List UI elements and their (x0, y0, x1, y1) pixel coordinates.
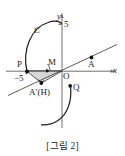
y-tick-label-5: 5 (64, 20, 69, 29)
point-label-M: M (48, 58, 56, 67)
point-label-A-prime: A′(H) (29, 88, 50, 97)
curve-C-upper-arc (26, 21, 62, 71)
curve-label-C: C (34, 26, 40, 35)
point-label-A: A (88, 60, 95, 69)
point-label-P: P (17, 60, 22, 69)
point-label-Q: Q (73, 83, 80, 92)
figure-container: C y x 5 −5 P M A′(H) A Q O [그림 2] (0, 0, 125, 156)
x-axis-label: x (113, 66, 117, 75)
origin-label-O: O (63, 72, 70, 81)
y-axis-label: y (57, 12, 61, 21)
point-dot-M (46, 70, 49, 73)
point-dot-A-prime (39, 81, 43, 85)
point-dot-Q (68, 84, 72, 88)
point-dot-P (25, 69, 29, 73)
x-tick-label-minus5: −5 (14, 74, 24, 83)
figure-caption: [그림 2] (0, 138, 125, 152)
